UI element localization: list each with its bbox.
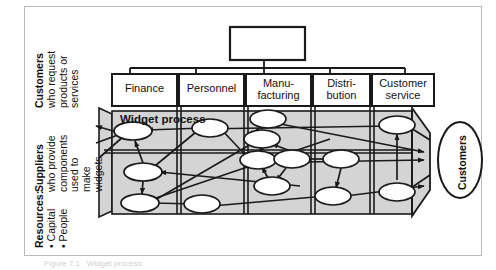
process-node [250, 110, 286, 128]
side-label-resources: Resources: • Capital • People [34, 191, 69, 248]
side-label-suppliers-line-5: widgets [92, 156, 104, 192]
department-label-finance: Finance [112, 83, 177, 95]
department-label-manufacturing-line-1: Manu- [263, 77, 294, 89]
side-label-suppliers: Suppliers who provide components used to… [34, 135, 105, 192]
department-label-distribution-line-2: bution [327, 89, 357, 101]
side-label-resources-line-2: • People [57, 209, 69, 248]
department-label-customer-service-line-2: service [386, 89, 421, 101]
process-node [184, 195, 220, 213]
side-label-suppliers-line-1: who provide [45, 135, 57, 192]
side-label-resources-line-1: • Capital [45, 209, 57, 248]
side-label-customers: Customers who request products or servic… [34, 51, 81, 108]
department-label-customer-service: Customerservice [372, 78, 434, 101]
process-node [323, 150, 359, 168]
customers-oval-label: Customers [456, 135, 468, 190]
process-node [244, 130, 280, 148]
process-node [379, 116, 415, 134]
side-label-customers-line-1: who request [45, 51, 57, 108]
process-node [274, 150, 310, 168]
side-label-customers-line-3: services [68, 69, 80, 108]
side-label-suppliers-line-4: make [80, 166, 92, 192]
process-node [379, 183, 415, 201]
department-label-distribution-line-1: Distri- [327, 77, 356, 89]
department-label-customer-service-line-1: Customer [379, 77, 427, 89]
side-label-suppliers-line-3: used to [68, 158, 80, 192]
side-label-customers-line-2: products or [57, 55, 69, 108]
side-label-resources-title: Resources: [33, 191, 45, 248]
department-label-distribution: Distri-bution [313, 78, 370, 101]
process-node [121, 194, 159, 212]
side-label-suppliers-line-2: components [57, 135, 69, 192]
side-label-customers-title: Customers [33, 53, 45, 108]
process-node [240, 151, 276, 169]
figure-canvas: Customers who request products or servic… [0, 0, 496, 270]
widget-process-label: Widget process [120, 113, 206, 125]
figure-caption: Figure 7.1 Widget process [44, 259, 142, 268]
top-level-box [230, 27, 305, 60]
side-label-suppliers-title: Suppliers [33, 144, 45, 192]
department-label-manufacturing-line-2: facturing [257, 89, 299, 101]
department-label-manufacturing: Manu-facturing [246, 78, 311, 101]
department-label-personnel: Personnel [179, 83, 244, 95]
process-node [254, 177, 290, 195]
process-node [315, 187, 351, 205]
process-node [124, 163, 162, 181]
org-chart-connectors [130, 60, 405, 74]
